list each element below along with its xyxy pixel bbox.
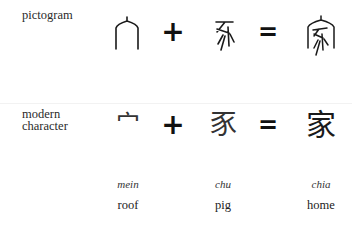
pig-romanization: chu (193, 178, 253, 190)
roof-modern-character: 宀 (114, 112, 142, 136)
equals-operator-modern: = (256, 111, 280, 139)
plus-operator-pictogram: + (160, 17, 186, 47)
equals-operator-pictogram: = (256, 18, 280, 46)
home-meaning: home (291, 198, 351, 213)
home-modern-character: 家 (304, 110, 338, 140)
pig-modern-character: 豕 (208, 111, 238, 138)
home-pictogram-icon (305, 14, 337, 58)
pig-meaning: pig (193, 198, 253, 213)
roof-meaning: roof (98, 198, 158, 213)
pig-pictogram-icon (212, 18, 238, 52)
roof-romanization: mein (98, 178, 158, 190)
plus-operator-modern: + (160, 110, 186, 140)
pictogram-row-label: pictogram (22, 9, 73, 21)
row-divider (0, 103, 352, 104)
home-romanization: chia (291, 178, 351, 190)
modern-row-label-line2: character (22, 120, 68, 132)
roof-pictogram-icon (112, 14, 142, 52)
